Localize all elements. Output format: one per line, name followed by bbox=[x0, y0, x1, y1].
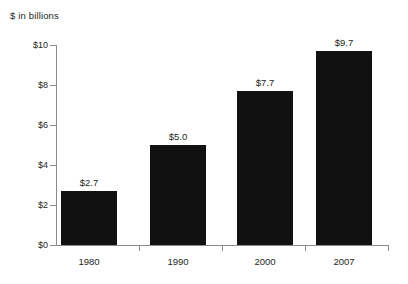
y-axis-tick bbox=[50, 245, 56, 246]
y-axis-line bbox=[56, 45, 57, 246]
x-axis-category-label: 2000 bbox=[254, 256, 275, 267]
y-axis-tick-label: $8 bbox=[2, 80, 48, 90]
y-axis-tick-label: $6 bbox=[2, 120, 48, 130]
bar-chart: $ in billions $10 $8 $6 $4 $2 $0 bbox=[0, 0, 408, 284]
bar-1980 bbox=[61, 191, 117, 245]
y-axis-tick-label: $2 bbox=[2, 200, 48, 210]
bar-2000 bbox=[237, 91, 293, 245]
x-axis-tick bbox=[139, 245, 140, 251]
plot-area: $10 $8 $6 $4 $2 $0 $2.7 bbox=[0, 0, 408, 284]
bar-value-label: $7.7 bbox=[256, 77, 275, 88]
bar-value-label: $5.0 bbox=[169, 131, 188, 142]
y-axis-tick bbox=[50, 165, 56, 166]
x-axis-category-label: 2007 bbox=[333, 256, 354, 267]
bar-value-label: $9.7 bbox=[335, 37, 354, 48]
y-axis-tick bbox=[50, 205, 56, 206]
x-axis-tick bbox=[305, 245, 306, 251]
y-axis-tick bbox=[50, 85, 56, 86]
bar-2007 bbox=[316, 51, 372, 245]
x-axis-tick bbox=[388, 245, 389, 251]
y-axis-tick-label: $4 bbox=[2, 160, 48, 170]
y-axis-tick-label: $10 bbox=[2, 40, 48, 50]
bar-value-label: $2.7 bbox=[80, 177, 99, 188]
x-axis-category-label: 1990 bbox=[167, 256, 188, 267]
y-axis-tick bbox=[50, 45, 56, 46]
y-axis-tick bbox=[50, 125, 56, 126]
y-axis-tick-label: $0 bbox=[2, 240, 48, 250]
x-axis-category-label: 1980 bbox=[78, 256, 99, 267]
bar-1990 bbox=[150, 145, 206, 245]
x-axis-tick bbox=[222, 245, 223, 251]
